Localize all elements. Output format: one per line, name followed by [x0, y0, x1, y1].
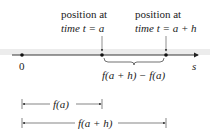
- band: [0, 49, 210, 55]
- point-a: [100, 53, 104, 57]
- label-position-ah-2: time t = a + h: [135, 22, 197, 34]
- label-position-a-1: position at: [61, 8, 107, 20]
- label-fa: f(a): [53, 98, 69, 110]
- label-position-a-2: time t = a: [61, 22, 104, 34]
- label-position-ah-1: position at: [135, 8, 181, 20]
- origin-point: [20, 53, 24, 57]
- label-origin: 0: [19, 60, 25, 72]
- label-axis-s: s: [192, 60, 196, 72]
- point-a-plus-h: [164, 53, 168, 57]
- label-fah: f(a + h): [78, 117, 112, 129]
- difference-brace: [104, 58, 164, 65]
- label-difference: f(a + h) − f(a): [102, 69, 165, 81]
